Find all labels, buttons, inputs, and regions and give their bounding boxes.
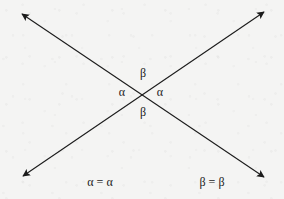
diagram-canvas: β α α β α = α β = β [0, 0, 284, 199]
angle-label-left: α [119, 86, 125, 98]
equation-alpha: α = α [87, 176, 112, 188]
angle-label-bottom: β [140, 106, 146, 118]
line-sw-ne [23, 12, 264, 176]
angle-label-right: α [157, 86, 163, 98]
equation-beta: β = β [200, 176, 225, 188]
vertical-angles-figure [0, 0, 284, 199]
angle-label-top: β [140, 67, 146, 79]
